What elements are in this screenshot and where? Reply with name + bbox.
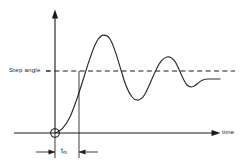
tm-subscript: m (63, 150, 67, 155)
time-axis-label: time (222, 128, 235, 135)
y-axis-arrow-icon (52, 10, 58, 19)
tm-dimension-left (36, 150, 55, 155)
tm-label: tm (61, 147, 67, 154)
step-angle-label: Step angle (9, 66, 41, 73)
step-response-plot (0, 0, 250, 167)
x-axis (14, 130, 221, 136)
step-response-curve (55, 35, 220, 133)
step-response-figure: Step angle time tm (0, 0, 250, 167)
tm-dimension-right (79, 150, 98, 155)
x-axis-arrow-icon (212, 130, 221, 136)
